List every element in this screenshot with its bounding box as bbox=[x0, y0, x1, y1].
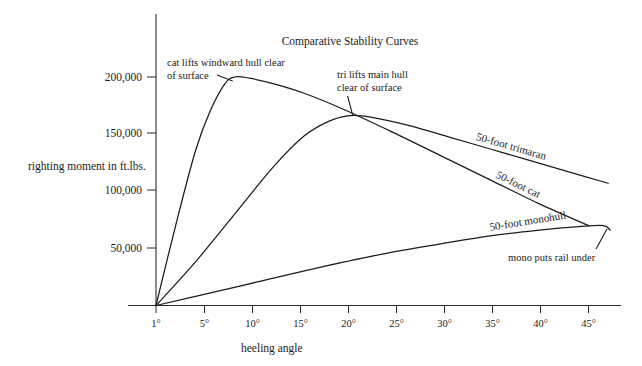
cat-annotation-line1: cat lifts windward hull clear bbox=[167, 57, 285, 68]
chart-page: 200,000 150,000 100,000 50,000 righting … bbox=[0, 0, 642, 366]
x-tick-label-1: 1° bbox=[151, 318, 160, 329]
series-label-trimaran: 50-foot trimaran bbox=[475, 130, 548, 162]
x-tick-label-30: 30° bbox=[437, 318, 452, 329]
mono-annotation-leader-icon bbox=[596, 229, 607, 249]
y-tick-label-50000: 50,000 bbox=[110, 242, 142, 255]
cat-annotation-line2: of surface bbox=[167, 70, 209, 81]
mono-annotation-label: mono puts rail under bbox=[508, 252, 596, 263]
comparative-stability-curves-chart: 200,000 150,000 100,000 50,000 righting … bbox=[0, 0, 642, 366]
x-tick-label-5: 5° bbox=[200, 318, 209, 329]
y-tick-label-100000: 100,000 bbox=[105, 184, 143, 197]
tri-annotation-line2: clear of surface bbox=[337, 82, 402, 93]
x-tick-label-20: 20° bbox=[341, 318, 356, 329]
series-label-cat: 50-foot cat bbox=[494, 168, 542, 200]
tri-annotation-line1: tri lifts main hull bbox=[337, 69, 408, 80]
y-tick-label-150000: 150,000 bbox=[105, 127, 143, 140]
x-tick-label-40: 40° bbox=[533, 318, 548, 329]
y-axis-ticks bbox=[147, 77, 156, 248]
y-axis-title: righting moment in ft.lbs. bbox=[28, 160, 146, 173]
x-tick-label-15: 15° bbox=[293, 318, 308, 329]
x-axis-title: heeling angle bbox=[241, 342, 303, 355]
chart-title: Comparative Stability Curves bbox=[282, 35, 419, 48]
x-tick-label-45: 45° bbox=[581, 318, 596, 329]
x-axis-ticks bbox=[156, 306, 589, 314]
y-tick-label-200000: 200,000 bbox=[105, 71, 143, 84]
x-tick-label-10: 10° bbox=[245, 318, 260, 329]
x-tick-label-25: 25° bbox=[389, 318, 404, 329]
curve-50-foot-monohull bbox=[156, 225, 610, 305]
curve-50-foot-trimaran bbox=[156, 115, 608, 305]
x-tick-label-35: 35° bbox=[485, 318, 500, 329]
